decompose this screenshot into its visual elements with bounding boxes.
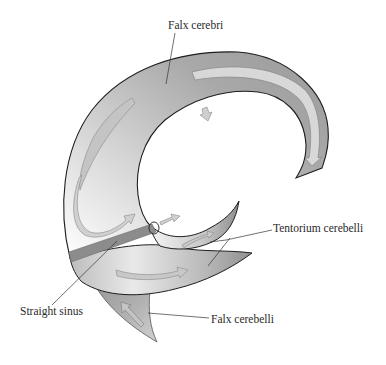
label-falx-cerebelli: Falx cerebelli bbox=[211, 314, 274, 326]
flow-arrow-sinus-out bbox=[160, 214, 180, 225]
label-tentorium-cerebelli: Tentorium cerebelli bbox=[273, 223, 363, 235]
flow-arrow-falx-down bbox=[200, 107, 212, 121]
leader-falx-cerebelli bbox=[148, 313, 209, 318]
label-falx-cerebri: Falx cerebri bbox=[168, 20, 223, 32]
label-straight-sinus: Straight sinus bbox=[20, 306, 83, 318]
